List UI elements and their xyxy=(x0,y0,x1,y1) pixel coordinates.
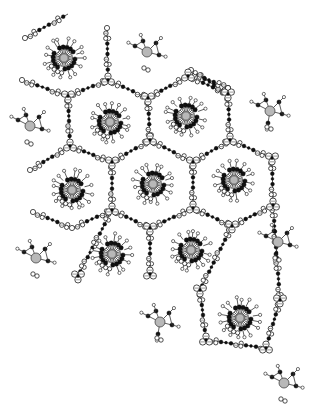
node-center-atom xyxy=(77,275,80,278)
hydrogen-atom xyxy=(187,230,190,233)
oxygen-atom xyxy=(157,144,161,148)
metal-center xyxy=(60,54,68,62)
oxygen-atom xyxy=(77,149,81,153)
carbon-atom xyxy=(91,153,95,157)
hydrogen-atom xyxy=(208,253,211,256)
oxygen-atom xyxy=(138,190,142,194)
node-center-atom xyxy=(279,299,282,302)
carbon-atom xyxy=(210,150,213,153)
carbon-atom xyxy=(253,212,257,216)
chain-segment-22 xyxy=(197,290,208,340)
hydrogen-atom xyxy=(256,326,259,329)
carbon-atom xyxy=(233,189,237,193)
node-center-atom xyxy=(229,139,232,142)
carbon-atom xyxy=(227,118,231,122)
junction-node-15 xyxy=(267,198,280,210)
hydrogen-atom xyxy=(48,242,51,245)
oxygen-atom xyxy=(60,151,64,155)
macrocycle-2 xyxy=(164,96,207,137)
chain-segment-4 xyxy=(65,96,73,146)
carbon-atom xyxy=(124,215,128,219)
oxygen-atom xyxy=(76,91,80,95)
junction-node-18 xyxy=(194,285,207,297)
hydrogen-atom xyxy=(247,168,250,171)
metal-center xyxy=(279,378,289,388)
oxygen-atom xyxy=(217,81,221,85)
hydrogen-atom xyxy=(16,247,19,250)
node-center-atom xyxy=(69,145,72,148)
oxygen-atom xyxy=(158,223,162,227)
oxygen-atom xyxy=(108,171,112,175)
oxygen-atom xyxy=(146,236,150,240)
oxygen-atom xyxy=(240,221,244,225)
hydrogen-atom xyxy=(262,92,265,95)
junction-node-2 xyxy=(142,93,155,105)
carbon-atom xyxy=(85,219,89,223)
hydrogen-atom xyxy=(156,164,159,167)
hydrogen-atom xyxy=(143,201,146,204)
oxygen-atom xyxy=(224,232,228,236)
oxygen-atom xyxy=(201,156,205,160)
metal-center xyxy=(31,253,41,263)
oxygen-atom xyxy=(145,106,149,110)
carbon-atom xyxy=(117,114,121,118)
carbon-atom xyxy=(270,172,274,176)
oxygen-atom xyxy=(66,129,70,133)
oxygen-atom xyxy=(55,92,59,96)
metal-center xyxy=(149,180,157,188)
hydrogen-atom xyxy=(221,164,224,167)
carbon-atom xyxy=(185,125,189,129)
hydrogen-atom xyxy=(218,313,221,316)
carbon-atom xyxy=(207,270,211,274)
oxygen-atom xyxy=(201,323,205,327)
hydrogen-atom xyxy=(52,39,55,42)
carbon-atom xyxy=(207,84,210,87)
carbon-atom xyxy=(223,238,227,242)
hydrogen-atom xyxy=(185,269,188,272)
hydrogen-atom xyxy=(10,115,13,118)
carbon-atom xyxy=(106,52,110,56)
carbon-atom xyxy=(91,218,94,221)
junction-node-6 xyxy=(106,157,119,169)
carbon-atom xyxy=(134,219,138,223)
hydrogen-atom xyxy=(202,263,205,266)
carbon-atom xyxy=(201,313,205,317)
carbon-atom xyxy=(52,51,56,55)
hydrogen-atom xyxy=(106,273,109,276)
carbon-atom xyxy=(119,246,123,250)
node-center-atom xyxy=(149,139,152,142)
junction-node-13 xyxy=(187,201,200,213)
hydrogen-atom xyxy=(47,129,50,132)
carbon-atom xyxy=(168,84,172,88)
terminal-oxygen xyxy=(104,25,109,30)
hydrogen-atom xyxy=(170,184,173,187)
node-center-atom xyxy=(231,225,234,228)
oxygen-atom xyxy=(79,264,83,268)
carbon-atom xyxy=(82,149,86,153)
metal-center xyxy=(236,314,244,322)
hydrogen-atom xyxy=(91,116,94,119)
metal-center xyxy=(230,176,238,184)
hydrogen-atom xyxy=(196,232,199,235)
carbon-atom xyxy=(111,263,115,267)
carbon-atom xyxy=(46,216,50,220)
carbon-atom xyxy=(68,134,72,138)
hydrogen-atom xyxy=(78,206,81,209)
hydrogen-atom xyxy=(200,102,203,105)
node-center-atom xyxy=(67,95,70,98)
oxygen-atom xyxy=(270,214,274,218)
hydrogen-atom xyxy=(282,95,285,98)
oxygen-atom xyxy=(30,83,34,87)
junction-node-8 xyxy=(187,157,200,169)
hydrogen-atom xyxy=(83,56,86,59)
oxygen-atom xyxy=(40,215,44,219)
hydrogen-atom xyxy=(226,301,229,304)
carbon-atom xyxy=(162,219,166,223)
carbon-atom xyxy=(46,158,49,161)
hydrogen-atom xyxy=(131,253,134,256)
oxygen-atom xyxy=(198,298,202,302)
hydrogen-atom xyxy=(127,124,130,127)
hydrogen-atom xyxy=(93,245,96,248)
carbon-atom xyxy=(219,340,223,344)
hydrogen-atom xyxy=(45,53,48,56)
